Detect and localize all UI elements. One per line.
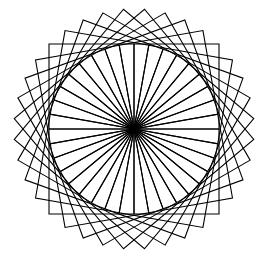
- rotated-squares-figure: [0, 0, 274, 260]
